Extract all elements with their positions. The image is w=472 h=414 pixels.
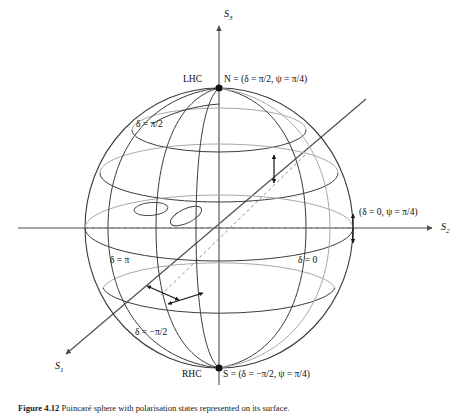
polarisation-ellipse-1 [133, 201, 168, 217]
axis-label-s3: S3 [224, 8, 233, 23]
south-pole-marker [215, 364, 222, 371]
axis-label-s1: S1 [55, 360, 64, 375]
meridian-label-delta-zero: δ = 0 [298, 255, 317, 265]
caption-number: Figure 4.12 [18, 403, 59, 413]
meridian-label-delta-pi: δ = π [110, 255, 129, 265]
north-pole-label: N = (δ = π/2, ψ = π/4) [224, 74, 307, 84]
south-pole-prefix: RHC [182, 369, 202, 379]
linear-polarisation-arrows-lower [147, 286, 203, 304]
caption-text: Poincaré sphere with polarisation states… [62, 403, 290, 413]
south-pole-label: S = (δ = −π/2, ψ = π/4) [223, 369, 310, 379]
meridian-label-delta-pi-over-2: δ = π/2 [136, 119, 163, 129]
north-pole-prefix: LHC [183, 74, 202, 84]
equator-right-label: (δ = 0, ψ = π/4) [359, 207, 418, 217]
poincare-sphere-figure: S3 S2 S1 LHC N = (δ = π/2, ψ = π/4) RHC … [0, 0, 472, 414]
polarisation-ellipses [133, 201, 204, 230]
north-pole-marker [215, 84, 222, 91]
meridian-label-delta-minus-pi-over-2: δ = −π/2 [135, 327, 167, 337]
polarisation-ellipse-2 [168, 202, 205, 229]
arrow-tilted-linear-1 [147, 286, 179, 300]
figure-caption: Figure 4.12 Poincaré sphere with polaris… [18, 403, 458, 414]
axis-s1-hidden [160, 155, 305, 296]
axis-label-s2: S2 [441, 221, 450, 236]
arrow-tilted-linear-2 [168, 293, 203, 304]
